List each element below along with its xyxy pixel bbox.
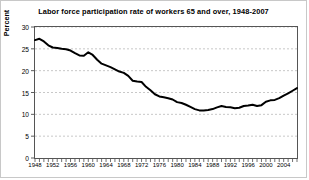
data-series-line	[35, 39, 297, 111]
y-tick-label: 15	[3, 89, 29, 96]
y-tick-label: 10	[3, 111, 29, 118]
x-tick-label: 2000	[259, 162, 272, 168]
x-tick-label: 1992	[224, 162, 237, 168]
x-tick-label: 2004	[277, 162, 290, 168]
plot-frame	[35, 27, 298, 159]
chart-container: Labor force participation rate of worker…	[0, 0, 307, 178]
y-axis-tick-labels: 051015202530	[3, 1, 29, 179]
plot-area	[1, 1, 308, 179]
y-tick-label: 25	[3, 45, 29, 52]
x-tick-label: 1976	[153, 162, 166, 168]
x-axis-tick-labels: 1948195219561960196419681972197619801984…	[1, 162, 308, 174]
gridlines	[35, 27, 297, 136]
chart-svg	[1, 1, 308, 179]
x-tick-label: 1996	[241, 162, 254, 168]
y-tick-label: 20	[3, 67, 29, 74]
y-tick-label: 30	[3, 24, 29, 31]
y-tick-label: 0	[3, 155, 29, 162]
x-tick-label: 1972	[135, 162, 148, 168]
x-tick-label: 1984	[188, 162, 201, 168]
x-tick-label: 1980	[170, 162, 183, 168]
x-tick-label: 1960	[82, 162, 95, 168]
x-tick-label: 1988	[206, 162, 219, 168]
x-tick-label: 1948	[28, 162, 41, 168]
x-tick-label: 1952	[46, 162, 59, 168]
x-tick-label: 1964	[99, 162, 112, 168]
x-tick-label: 1968	[117, 162, 130, 168]
y-tick-label: 5	[3, 133, 29, 140]
x-tick-label: 1956	[64, 162, 77, 168]
